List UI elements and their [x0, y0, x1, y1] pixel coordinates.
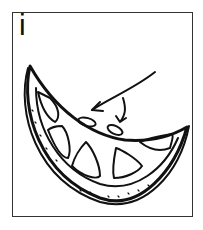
orange-slice-icon: [0, 0, 203, 230]
